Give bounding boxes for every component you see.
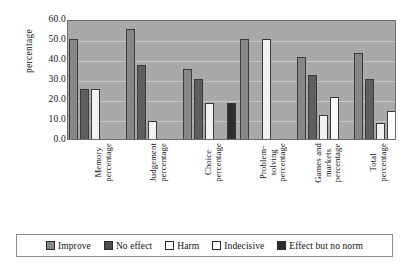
legend-label: No effect <box>116 241 152 251</box>
bar-group <box>353 21 396 139</box>
plot-area <box>67 20 396 140</box>
legend-label: Effect but no norm <box>289 241 363 251</box>
legend-swatch-no-effect <box>104 241 113 250</box>
bar-group <box>296 21 353 139</box>
legend-item[interactable]: Improve <box>46 241 91 251</box>
x-axis-label-line: Games and <box>314 143 324 183</box>
bar <box>376 123 385 139</box>
bar-groups <box>68 21 395 139</box>
x-axis-label: Judgementpercentage <box>149 143 168 182</box>
x-axis-label: Choicepercentage <box>204 143 223 182</box>
x-axis-label: Problem-solvingpercentage <box>259 143 288 182</box>
y-axis-tick: 30.0 <box>49 74 66 84</box>
y-axis-tick: 0.0 <box>54 134 66 144</box>
y-axis-tick: 20.0 <box>49 94 66 104</box>
y-axis-tick: 40.0 <box>49 54 66 64</box>
bar <box>80 89 89 139</box>
bar <box>365 79 374 139</box>
bar <box>240 39 249 139</box>
x-axis-label: Memorypercentage <box>94 143 113 182</box>
legend-swatch-indecisive <box>212 241 221 250</box>
bar <box>330 97 339 139</box>
chart-legend: ImproveNo effectHarmIndecisiveEffect but… <box>16 234 393 257</box>
x-axis-label: Games andmarketspercentage <box>314 143 343 183</box>
bar-group <box>125 21 182 139</box>
y-axis-tick-labels: 60.0 50.0 40.0 30.0 20.0 10.0 0.0 <box>22 14 66 142</box>
legend-swatch-harm <box>165 241 174 250</box>
bar-chart: percentage 60.0 50.0 40.0 30.0 20.0 10.0… <box>0 0 409 270</box>
legend-swatch-improve <box>46 241 55 250</box>
bar <box>387 111 396 139</box>
x-axis-label: Totalpercentage <box>369 143 388 182</box>
legend-item[interactable]: Indecisive <box>212 241 264 251</box>
legend-item[interactable]: Effect but no norm <box>277 241 363 251</box>
x-axis-label-cell: Problem-solvingpercentage <box>231 141 286 225</box>
legend-item[interactable]: No effect <box>104 241 152 251</box>
legend-label: Improve <box>58 241 91 251</box>
bar <box>148 121 157 139</box>
bar <box>262 39 271 139</box>
bar <box>308 75 317 139</box>
bar <box>194 79 203 139</box>
bar-group <box>182 21 239 139</box>
x-axis-label-cell: Judgementpercentage <box>122 141 177 225</box>
y-axis-tick: 60.0 <box>49 14 66 24</box>
x-axis-label-cell: Totalpercentage <box>341 141 396 225</box>
x-axis-label-cell: Games andmarketspercentage <box>286 141 341 225</box>
x-axis-label-line: percentage <box>378 143 388 182</box>
x-axis-label-line: percentage <box>214 143 224 182</box>
bar-group <box>239 21 296 139</box>
bar <box>354 53 363 139</box>
legend-label: Harm <box>177 241 199 251</box>
y-axis-tick: 10.0 <box>49 114 66 124</box>
bar <box>126 29 135 139</box>
bar <box>319 115 328 139</box>
bar <box>91 89 100 139</box>
legend-swatch-effect-but-no-norm <box>277 241 286 250</box>
x-axis-category-labels: MemorypercentageJudgementpercentageChoic… <box>67 141 396 225</box>
bar <box>205 103 214 139</box>
x-axis-label-cell: Memorypercentage <box>67 141 122 225</box>
bar <box>137 65 146 139</box>
legend-label: Indecisive <box>224 241 264 251</box>
bar <box>69 39 78 139</box>
bar <box>183 69 192 139</box>
x-axis-label-line: Total <box>369 143 379 182</box>
x-axis-label-line: percentage <box>159 143 169 182</box>
x-axis-label-cell: Choicepercentage <box>177 141 232 225</box>
bar <box>297 57 306 139</box>
x-axis-label-line: percentage <box>104 143 114 182</box>
legend-item[interactable]: Harm <box>165 241 199 251</box>
y-axis-tick: 50.0 <box>49 34 66 44</box>
bar <box>227 103 236 139</box>
bar-group <box>68 21 125 139</box>
